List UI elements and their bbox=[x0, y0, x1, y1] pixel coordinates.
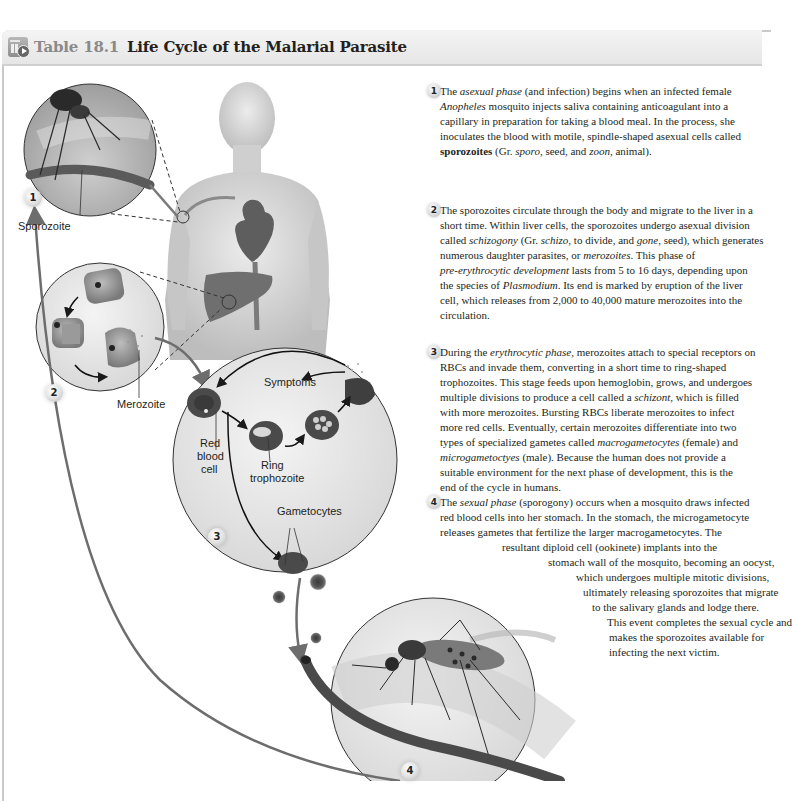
label-ring-1: Ring bbox=[261, 459, 284, 472]
label-symptoms: Symptoms bbox=[264, 376, 316, 389]
table-header: Table 18.1 Life Cycle of the Malarial Pa… bbox=[2, 30, 762, 66]
label-red-blood-cell-2: blood bbox=[197, 450, 224, 463]
diagram-badge-3: 3 bbox=[208, 528, 226, 546]
label-ring-2: trophozoite bbox=[250, 472, 304, 485]
label-red-blood-cell-1: Red bbox=[200, 437, 220, 450]
label-gametocytes: Gametocytes bbox=[277, 505, 342, 518]
diagram-badge-2: 2 bbox=[45, 384, 63, 402]
table-media-icon[interactable] bbox=[8, 37, 28, 57]
gametocytes-to-mosquito bbox=[272, 573, 327, 655]
life-cycle-illustration bbox=[0, 66, 751, 781]
circle-1-mosquito-bite bbox=[24, 84, 178, 217]
table-number: Table 18.1 bbox=[34, 38, 119, 56]
table-title: Life Cycle of the Malarial Parasite bbox=[127, 38, 407, 56]
label-red-blood-cell-3: cell bbox=[201, 463, 218, 476]
label-sporozoite: Sporozoite bbox=[18, 220, 71, 233]
label-merozoite: Merozoite bbox=[117, 398, 165, 411]
diagram-badge-4: 4 bbox=[401, 762, 419, 780]
diagram-badge-1: 1 bbox=[24, 189, 42, 207]
human-figure bbox=[165, 82, 330, 360]
